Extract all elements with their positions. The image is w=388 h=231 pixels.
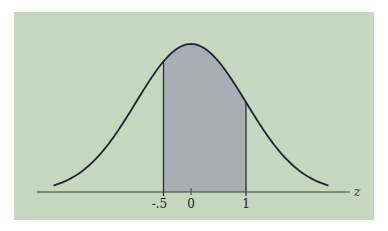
tick-label-one: 1: [242, 197, 250, 211]
shaded-area: [164, 44, 247, 192]
axis-variable-label: z: [353, 185, 361, 199]
normal-curve-chart: -.5 0 1 z: [0, 0, 388, 231]
tick-label-neg-half: -.5: [152, 197, 168, 211]
tick-label-zero: 0: [187, 197, 195, 211]
